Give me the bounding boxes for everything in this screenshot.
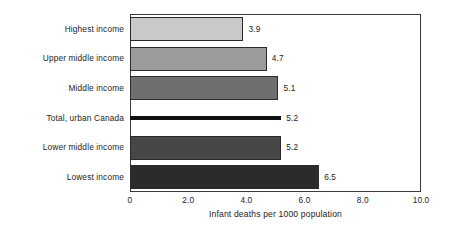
x-axis-tick-labels: 02.04.06.08.010.0 (130, 196, 421, 210)
category-label: Highest income (0, 25, 124, 33)
category-label: Total, urban Canada (0, 114, 124, 122)
bar-value-labels: 3.94.75.15.25.26.5 (130, 14, 421, 192)
bar-value-label: 5.2 (286, 114, 298, 122)
bar-value-label: 3.9 (248, 25, 260, 33)
bar-value-label: 5.2 (286, 143, 298, 151)
category-label: Lowest income (0, 173, 124, 181)
x-tick-label: 4.0 (240, 196, 252, 204)
bar-value-label: 4.7 (272, 54, 284, 62)
x-tick-label: 6.0 (299, 196, 311, 204)
bar-value-label: 5.1 (283, 84, 295, 92)
x-tick-label: 2.0 (182, 196, 194, 204)
bar-chart: Highest incomeUpper middle incomeMiddle … (0, 0, 451, 235)
category-label: Upper middle income (0, 54, 124, 62)
category-label: Middle income (0, 84, 124, 92)
x-tick-label: 8.0 (357, 196, 369, 204)
x-axis-title: Infant deaths per 1000 population (130, 210, 421, 219)
category-label: Lower middle income (0, 143, 124, 151)
category-axis-labels: Highest incomeUpper middle incomeMiddle … (0, 14, 124, 192)
x-tick-label: 0 (128, 196, 133, 204)
bar-value-label: 6.5 (324, 173, 336, 181)
x-tick-label: 10.0 (413, 196, 430, 204)
